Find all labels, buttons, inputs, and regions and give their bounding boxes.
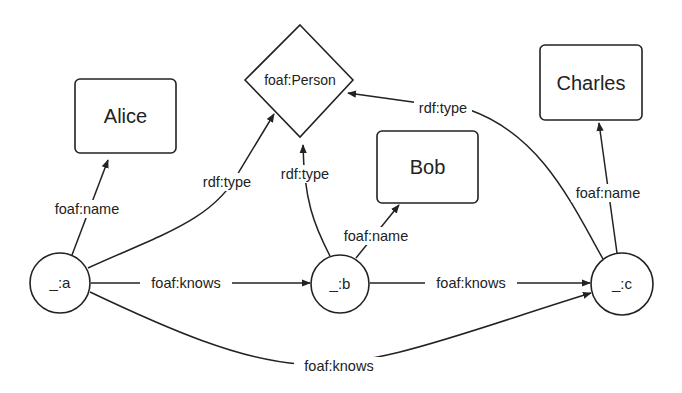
node-bob: Bob (377, 131, 478, 203)
edge-label: foaf:name (576, 185, 641, 201)
edge-label: rdf:type (203, 174, 251, 190)
node-charles: Charles (540, 45, 642, 120)
edge-label: foaf:knows (151, 275, 220, 291)
node-foaf-person: foaf:Person (245, 25, 353, 137)
edge-label: rdf:type (281, 166, 329, 182)
edge-b-c: foaf:knows (370, 274, 590, 292)
edge-a-alice: foaf:name (50, 160, 124, 255)
edge-label: foaf:knows (304, 358, 373, 374)
edge-label: foaf:knows (436, 275, 505, 291)
node-label: _:a (49, 274, 72, 291)
edge-label: foaf:name (344, 228, 409, 244)
node-label: Charles (557, 72, 626, 94)
rdf-graph: foaf:name rdf:type rdf:type rdf:type foa… (0, 0, 682, 393)
node-label: foaf:Person (264, 72, 336, 88)
edge-c-charles: foaf:name (571, 123, 645, 253)
node-blank-c: _:c (591, 253, 653, 315)
node-blank-a: _:a (30, 253, 90, 313)
edge-b-person: rdf:type (276, 145, 334, 256)
edge-label: foaf:name (55, 201, 120, 217)
node-label: Alice (104, 105, 147, 127)
edge-b-bob: foaf:name (338, 205, 412, 258)
node-label: _:c (611, 275, 633, 292)
node-label: _:b (329, 275, 351, 292)
edge-a-b: foaf:knows (91, 274, 310, 292)
node-alice: Alice (75, 79, 176, 153)
node-label: Bob (410, 156, 446, 178)
edge-label: rdf:type (419, 100, 467, 116)
node-blank-b: _:b (311, 255, 369, 313)
